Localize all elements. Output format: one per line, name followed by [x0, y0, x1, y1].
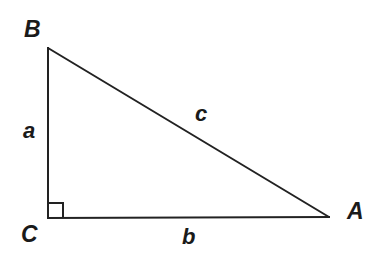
side-label-b: b [182, 226, 195, 248]
vertex-label-c: C [21, 223, 38, 246]
side-c-hypotenuse-line [48, 48, 329, 217]
vertex-label-b: B [24, 18, 41, 41]
right-angle-marker-icon [48, 203, 63, 218]
triangle-figure [0, 0, 390, 262]
side-b-line [48, 217, 329, 218]
vertex-label-a: A [347, 200, 364, 223]
right-triangle-diagram: B C A a c b [0, 0, 390, 262]
side-label-c: c [195, 103, 207, 125]
side-label-a: a [23, 120, 35, 142]
